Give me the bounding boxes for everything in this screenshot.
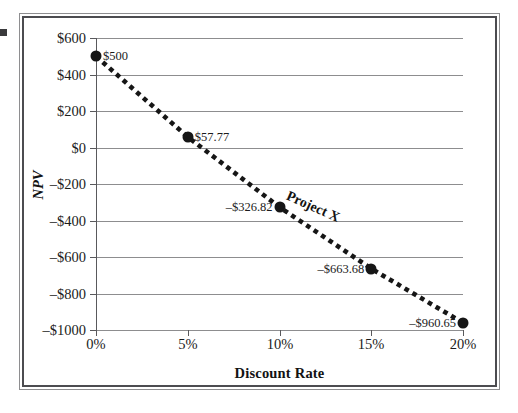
data-point-marker: [366, 263, 377, 274]
y-axis-title: NPV: [30, 171, 47, 200]
y-axis-tick-label: –$400: [0, 214, 86, 229]
y-axis-tick: [90, 257, 96, 258]
y-axis-tick-label: $400: [0, 68, 86, 83]
gridline: [96, 221, 463, 222]
y-axis-tick-label: $200: [0, 104, 86, 119]
data-point-marker: [458, 317, 469, 328]
y-axis-tick: [90, 75, 96, 76]
data-point-label: $500: [103, 50, 128, 63]
y-axis-tick-label: $600: [0, 31, 86, 46]
x-axis-tick-label: 0%: [86, 337, 105, 352]
x-axis-tick-label: 20%: [450, 337, 477, 352]
x-axis-tick-label: 10%: [267, 337, 294, 352]
data-point-marker: [274, 202, 285, 213]
gridline: [96, 184, 463, 185]
data-point-label: –$960.65: [409, 316, 456, 329]
x-axis-tick-label: 15%: [358, 337, 385, 352]
y-axis-tick: [90, 38, 96, 39]
gridline: [96, 294, 463, 295]
data-point-marker: [182, 131, 193, 142]
y-axis-tick-label: –$600: [0, 250, 86, 265]
y-axis-tick: [90, 184, 96, 185]
data-point-label: –$663.68: [317, 262, 364, 275]
y-axis-tick-label: $0: [0, 141, 86, 156]
gridline: [96, 257, 463, 258]
y-axis-tick: [90, 111, 96, 112]
x-axis-tick-label: 5%: [178, 337, 197, 352]
gridline: [96, 75, 463, 76]
gridline: [96, 38, 463, 39]
gridline: [96, 111, 463, 112]
gridline: [96, 148, 463, 149]
y-axis-tick-label: –$1000: [0, 323, 86, 338]
data-point-label: –$326.82: [226, 201, 273, 214]
y-axis-tick: [90, 148, 96, 149]
x-axis-title: Discount Rate: [96, 365, 463, 382]
y-axis-tick: [90, 221, 96, 222]
data-point-label: $57.77: [195, 130, 229, 143]
y-axis-tick-label: –$800: [0, 287, 86, 302]
data-point-marker: [91, 51, 102, 62]
y-axis-line: [96, 38, 97, 331]
y-axis-tick: [90, 294, 96, 295]
